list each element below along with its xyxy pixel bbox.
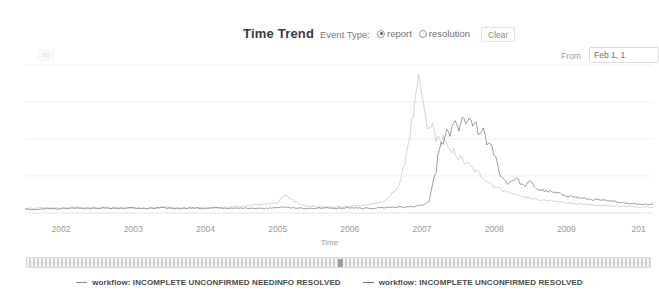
radio-option-resolution-label: resolution [429, 28, 470, 39]
x-tick-label: 201 [631, 224, 645, 234]
x-tick-label: 2002 [52, 224, 71, 234]
chart-header: Time Trend Event Type: report resolution… [0, 0, 659, 46]
chart-plot-area [25, 64, 653, 214]
x-axis-ticks: 20022003200420052006200720082009201 [25, 224, 653, 236]
x-tick-label: 2005 [268, 224, 287, 234]
event-type-label: Event Type: [320, 29, 370, 40]
x-tick-label: 2009 [557, 224, 576, 234]
all-range-button[interactable]: All [37, 49, 54, 61]
from-label: From [561, 51, 581, 61]
x-tick-label: 2007 [413, 224, 432, 234]
radio-unselected-icon[interactable] [419, 30, 427, 38]
x-tick-label: 2003 [124, 224, 143, 234]
x-tick-label: 2004 [196, 224, 215, 234]
legend-item-1-label: workflow: INCOMPLETE UNCONFIRMED NEEDINF… [92, 278, 340, 287]
chart-series-layer [25, 75, 653, 210]
x-tick-label: 2006 [340, 224, 359, 234]
time-series-plot [25, 64, 653, 214]
series-line [25, 75, 653, 210]
chart-gridlines [25, 65, 653, 176]
legend-line-icon [363, 282, 374, 283]
radio-selected-icon[interactable] [377, 30, 385, 38]
radio-option-resolution[interactable]: resolution [419, 28, 470, 39]
time-range-scrollbar[interactable] [26, 257, 651, 268]
page-title: Time Trend [243, 26, 314, 41]
time-trend-widget: Time Trend Event Type: report resolution… [0, 0, 659, 304]
scrollbar-thumb[interactable] [338, 259, 343, 267]
clear-button[interactable]: Clear [481, 27, 515, 42]
legend-item-2-label: workflow: INCOMPLETE UNCONFIRMED RESOLVE… [379, 278, 583, 287]
event-type-radio-group[interactable]: report resolution [377, 28, 470, 39]
legend-line-icon [76, 282, 87, 283]
series-line [25, 117, 653, 210]
x-axis-label: Time [0, 238, 659, 247]
x-tick-label: 2008 [485, 224, 504, 234]
legend-item-2[interactable]: workflow: INCOMPLETE UNCONFIRMED RESOLVE… [363, 278, 583, 287]
from-date-input[interactable]: Feb 1, 1 [589, 47, 659, 63]
radio-option-report[interactable]: report [377, 28, 412, 39]
legend-item-1[interactable]: workflow: INCOMPLETE UNCONFIRMED NEEDINF… [76, 278, 340, 287]
chart-legend: workflow: INCOMPLETE UNCONFIRMED NEEDINF… [0, 278, 659, 287]
radio-option-report-label: report [387, 28, 412, 39]
